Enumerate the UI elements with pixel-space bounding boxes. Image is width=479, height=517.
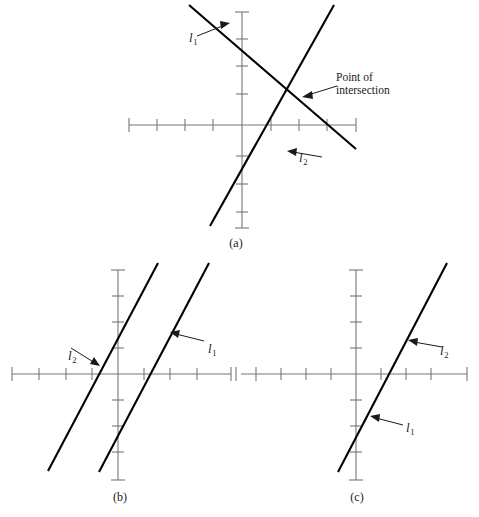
panel-a-label-l2: l2	[299, 150, 307, 166]
panel-b-caption: (b)	[100, 490, 140, 505]
arrowhead-l2	[90, 357, 100, 366]
panel-a-caption: (a)	[216, 236, 256, 251]
arrow-to-l1	[176, 334, 204, 341]
point-of-intersection-line-1: Point of	[336, 71, 390, 84]
graph-line-l1	[189, 5, 356, 149]
arrowhead-l2	[287, 148, 297, 156]
arrow-to-l2	[414, 342, 442, 347]
panel-c-label-l2: l2	[440, 343, 448, 359]
graph-line-l2	[48, 263, 158, 471]
panel-c-plot	[237, 266, 472, 488]
panel-c-label-l1: l1	[406, 420, 414, 436]
panel-b	[8, 266, 236, 488]
arrow-to-l1	[376, 418, 403, 425]
point-of-intersection-annotation: Point of intersection	[336, 71, 390, 97]
panel-b-label-l1: l1	[208, 341, 216, 357]
arrowhead-l1	[370, 414, 380, 422]
graph-line-l1	[99, 263, 209, 472]
graph-line-l1-l2	[338, 263, 447, 472]
point-of-intersection-line-2: intersection	[336, 84, 390, 97]
panel-c	[237, 266, 472, 488]
panel-b-plot	[8, 266, 236, 488]
panel-a-plot	[125, 8, 360, 236]
arrow-to-intersection	[308, 86, 337, 95]
arrowhead-l2	[408, 338, 418, 346]
arrowhead-intersection	[302, 91, 313, 99]
panel-a-label-l1: l1	[189, 30, 197, 46]
arrow-to-l2	[293, 152, 322, 157]
panel-b-label-l2: l2	[68, 348, 76, 364]
figure-three-cases-linear-systems: l1 l2 Point of intersection (a)	[0, 0, 479, 517]
arrowhead-l1	[220, 21, 230, 29]
panel-c-caption: (c)	[337, 490, 377, 505]
panel-a	[125, 8, 360, 236]
